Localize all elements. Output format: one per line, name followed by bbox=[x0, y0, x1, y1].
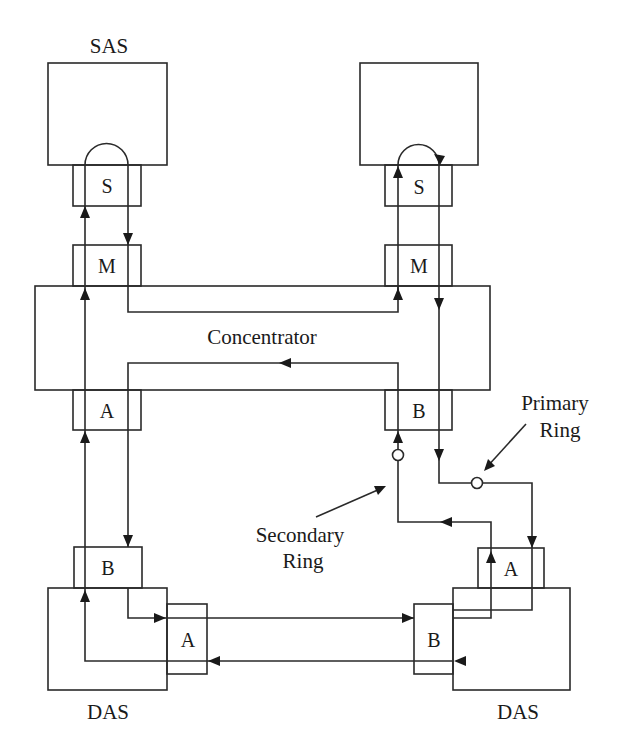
secondary-ring-label-2: Ring bbox=[283, 549, 324, 573]
primary-ring-label-2: Ring bbox=[540, 418, 581, 442]
arrow-up-icon bbox=[393, 166, 403, 178]
das-right-internal-up bbox=[453, 590, 491, 618]
conc-b-label: B bbox=[412, 400, 425, 422]
arrow-up-icon bbox=[80, 288, 90, 300]
arrow-up-icon bbox=[393, 288, 403, 300]
primary-ring-label-1: Primary bbox=[521, 391, 589, 415]
das-right-a-label: A bbox=[504, 558, 519, 580]
arrow-down-icon bbox=[527, 536, 537, 548]
sas-left-box bbox=[48, 63, 167, 165]
sas-right-s-label: S bbox=[413, 176, 424, 198]
conc-a-label: A bbox=[100, 400, 115, 422]
secondary-ring-node bbox=[393, 450, 404, 461]
arrow-left-icon bbox=[279, 358, 291, 368]
primary-ring-node bbox=[472, 478, 483, 489]
arrow-left-icon bbox=[208, 656, 220, 666]
arrow-left-icon bbox=[440, 517, 452, 527]
arrow-right-icon bbox=[154, 613, 166, 623]
das-right-b-label: B bbox=[427, 629, 440, 651]
das-link-bottom bbox=[85, 588, 453, 661]
arrow-up-icon bbox=[80, 590, 90, 602]
secondary-ring-label-1: Secondary bbox=[256, 523, 345, 547]
arrow-down-icon bbox=[434, 298, 444, 310]
concentrator-label: Concentrator bbox=[207, 325, 317, 349]
primary-ring-pointer bbox=[486, 424, 526, 468]
fddi-diagram: SAS S M S M Concentrator A B Primary Rin… bbox=[0, 0, 632, 752]
das-left-box bbox=[48, 588, 167, 690]
arrow-up-icon bbox=[80, 206, 90, 218]
arrow-left-icon bbox=[454, 656, 466, 666]
conc-m-right-label: M bbox=[410, 255, 428, 277]
das-left-a-label: A bbox=[181, 629, 196, 651]
arrow-down-icon bbox=[434, 449, 444, 461]
arrow-up-icon bbox=[486, 551, 496, 563]
primary-ring-path-a bbox=[439, 455, 472, 483]
arrow-down-icon bbox=[123, 535, 133, 547]
secondary-ring-pointer bbox=[316, 489, 380, 517]
sas-right-box bbox=[360, 63, 478, 165]
arrow-right-icon bbox=[402, 613, 414, 623]
das-link-top bbox=[128, 588, 414, 618]
sas-left-s-label: S bbox=[101, 175, 112, 197]
arrow-down-icon bbox=[123, 233, 133, 245]
das-right-box bbox=[453, 588, 570, 690]
primary-ring-path-b bbox=[453, 483, 532, 610]
arrow-up-icon bbox=[80, 431, 90, 443]
arrow-down-icon bbox=[434, 154, 445, 165]
das-right-label: DAS bbox=[497, 700, 539, 724]
das-left-label: DAS bbox=[87, 700, 129, 724]
conc-m-left-label: M bbox=[98, 255, 116, 277]
conc-upper-path bbox=[128, 286, 398, 312]
sas-left-label: SAS bbox=[90, 34, 129, 58]
arrow-up-icon bbox=[393, 431, 403, 443]
das-left-b-label: B bbox=[101, 557, 114, 579]
